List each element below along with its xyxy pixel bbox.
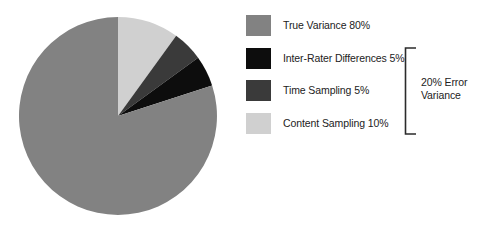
legend-label-inter-rater-differences: Inter-Rater Differences 5%: [283, 52, 405, 64]
legend-item-time-sampling[interactable]: Time Sampling 5%: [246, 79, 369, 101]
error-variance-label: 20% Error Variance: [421, 76, 477, 102]
chart-legend: True Variance 80% Inter-Rater Difference…: [246, 12, 411, 140]
pie-chart-figure: True Variance 80% Inter-Rater Difference…: [0, 0, 477, 226]
error-variance-label-line2: Variance: [421, 89, 477, 102]
legend-item-content-sampling[interactable]: Content Sampling 10%: [246, 112, 388, 134]
swatch-true-variance: [246, 15, 271, 36]
legend-label-true-variance: True Variance 80%: [283, 19, 370, 31]
error-variance-bracket: [404, 47, 417, 135]
swatch-inter-rater: [246, 48, 271, 69]
legend-label-content-sampling: Content Sampling 10%: [283, 117, 388, 129]
swatch-content-sampling: [246, 113, 271, 134]
error-variance-label-line1: 20% Error: [421, 76, 467, 88]
bracket-icon: [404, 47, 417, 135]
swatch-time-sampling: [246, 80, 271, 101]
pie-chart: [16, 16, 220, 216]
legend-item-inter-rater-differences[interactable]: Inter-Rater Differences 5%: [246, 47, 405, 69]
pie-slices: [19, 17, 217, 215]
legend-label-time-sampling: Time Sampling 5%: [283, 84, 369, 96]
pie-chart-svg: [16, 16, 220, 216]
legend-item-true-variance[interactable]: True Variance 80%: [246, 14, 370, 36]
